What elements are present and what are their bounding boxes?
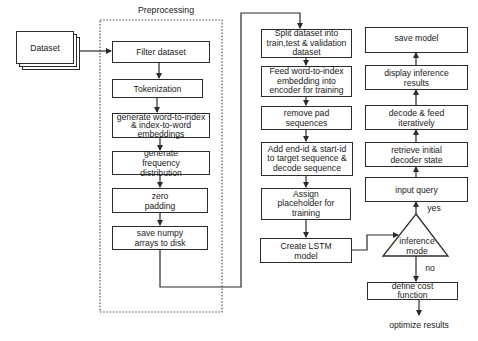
define-cost-step: define cost function [367,282,458,300]
step-label: Feed word-to-index embedding into encode… [264,67,349,96]
input-query-step: input query [365,177,468,202]
step-label: Create LSTM model [276,241,336,261]
step-label: remove pad sequences [277,108,337,128]
decode-feed-step: decode & feed iteratively [365,105,468,130]
assign-placeholder-step: Assign placeholder for training [261,188,351,220]
preprocessing-title: Preprocessing [118,5,214,15]
step-label: save numpy arrays to disk [125,228,195,248]
filter-dataset-step: Filter dataset [112,41,210,63]
generate-embeddings-step: generate word-to-index & index-to-word e… [112,113,210,138]
split-dataset-step: Split dataset into train,test & validati… [261,29,352,58]
zero-padding-step: zero padding [112,188,208,213]
step-label: generate frequency distribution [126,148,196,178]
remove-pad-step: remove pad sequences [261,106,352,130]
step-label: input query [395,185,438,195]
step-label: Assign placeholder for training [271,190,341,219]
step-label: Split dataset into train,test & validati… [264,29,349,58]
decision-label: inference mode [393,236,441,256]
step-label: generate word-to-index & index-to-word e… [115,113,207,139]
dataset-label: Dataset [30,43,60,53]
step-label: decode & feed iteratively [387,108,447,128]
step-label: Filter dataset [136,47,186,57]
step-label: retrieve initial decoder state [387,145,447,165]
yes-label: yes [424,203,444,213]
no-label: no [422,263,438,273]
step-label: Add end-id & start-id to target sequence… [264,145,350,174]
tokenization-step: Tokenization [112,79,203,98]
step-label: display inference results [377,68,457,88]
feed-encoder-step: Feed word-to-index embedding into encode… [261,66,352,97]
save-numpy-step: save numpy arrays to disk [112,226,208,250]
retrieve-decoder-state-step: retrieve initial decoder state [365,142,468,167]
add-end-start-id-step: Add end-id & start-id to target sequence… [261,142,353,176]
step-label: define cost function [385,282,441,299]
dataset-node: Dataset [16,31,74,64]
save-model-step: save model [365,27,468,53]
step-label: save model [395,33,439,43]
frequency-distribution-step: generate frequency distribution [112,151,210,175]
create-lstm-step: Create LSTM model [260,238,352,263]
step-label: zero padding [140,191,180,211]
step-label: Tokenization [134,84,182,94]
display-inference-step: display inference results [365,65,468,90]
optimize-results-label: optimize results [376,320,462,330]
